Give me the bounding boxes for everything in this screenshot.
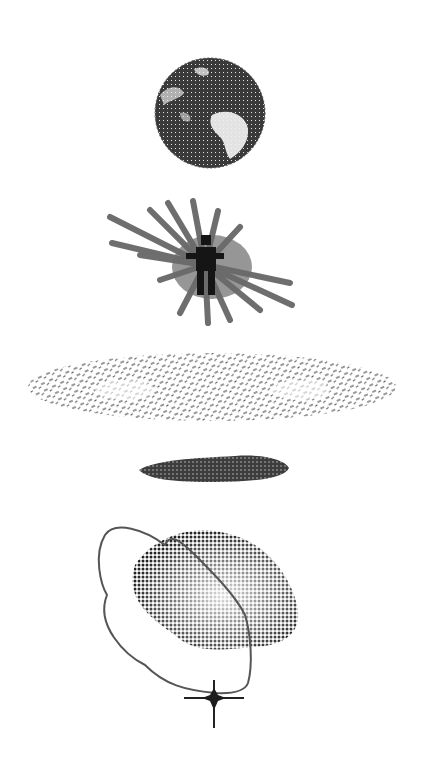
- halftone-cloud-illustration: [85, 515, 325, 730]
- galaxy-icon: [25, 350, 400, 425]
- dense-band-illustration: [135, 448, 295, 490]
- band-icon: [135, 448, 295, 490]
- cloud-icon: [85, 515, 325, 730]
- radiating-figure-illustration: [100, 195, 300, 330]
- star-icon: [184, 680, 244, 728]
- globe-icon: [150, 55, 275, 175]
- earth-globe-illustration: [150, 55, 275, 175]
- galaxy-ellipse-illustration: [25, 350, 400, 425]
- burst-icon: [100, 195, 300, 330]
